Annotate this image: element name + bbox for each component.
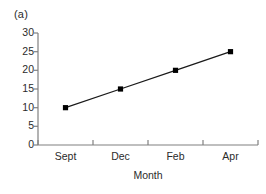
x-axis-ticks	[38, 140, 258, 145]
data-point-marker	[228, 49, 233, 54]
y-tick-label-25: 25	[0, 46, 34, 57]
chart-figure: (a) 30 25 20	[0, 0, 266, 194]
data-point-marker	[173, 68, 178, 73]
x-tick-label-apr: Apr	[222, 150, 238, 163]
y-tick-label-0: 0	[0, 139, 34, 150]
x-tick-label-feb: Feb	[166, 150, 184, 163]
y-tick-label-30: 30	[0, 27, 34, 38]
y-tick-label-5: 5	[0, 120, 34, 131]
x-axis-tick-labels: Sept Dec Feb Apr	[38, 150, 258, 166]
y-tick-label-15: 15	[0, 83, 34, 94]
x-tick-label-dec: Dec	[111, 150, 130, 163]
axis-lines	[38, 33, 258, 145]
series-line	[66, 52, 231, 108]
data-point-marker	[63, 105, 68, 110]
y-tick-label-10: 10	[0, 102, 34, 113]
x-tick-label-sept: Sept	[55, 150, 77, 163]
x-axis-title: Month	[38, 169, 258, 182]
data-point-marker	[118, 86, 123, 91]
y-axis-tick-labels: 30 25 20 15 10 5 0	[0, 0, 34, 194]
y-tick-label-20: 20	[0, 64, 34, 75]
